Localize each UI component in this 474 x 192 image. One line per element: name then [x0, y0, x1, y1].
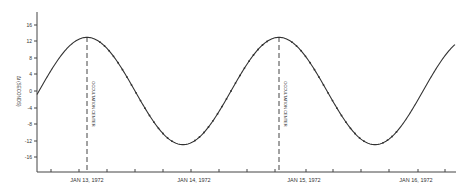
data-point	[354, 133, 356, 135]
y-tick-label: -8	[28, 121, 33, 127]
data-point	[153, 121, 155, 123]
data-point	[158, 127, 160, 129]
y-tick-label: 16	[26, 22, 32, 28]
data-point	[203, 132, 205, 134]
data-point	[230, 90, 232, 92]
data-point	[323, 84, 325, 86]
y-tick-label: -4	[28, 105, 33, 111]
data-point	[387, 139, 389, 141]
data-point	[239, 75, 241, 77]
y-tick-label: 8	[29, 55, 32, 61]
observation-points	[99, 41, 397, 144]
x-tick-label: JAN 16, 1972	[399, 177, 432, 183]
data-point	[363, 140, 365, 142]
data-point	[257, 49, 259, 51]
x-tick-label: JAN 15, 1972	[287, 177, 320, 183]
data-point	[212, 120, 214, 122]
data-point	[131, 84, 133, 86]
data-point	[341, 115, 343, 117]
data-point	[122, 69, 124, 71]
data-point	[382, 142, 384, 144]
y-axis-label: Δt (SECONDS)	[16, 76, 21, 107]
data-point	[113, 55, 115, 57]
data-point	[199, 136, 201, 138]
data-point	[345, 121, 347, 123]
x-tick-labels: JAN 13, 1972 JAN 14, 1972 JAN 15, 1972 J…	[70, 177, 432, 183]
data-point	[221, 106, 223, 108]
y-tick-label: -16	[25, 154, 32, 160]
x-tick-label: JAN 13, 1972	[70, 177, 103, 183]
data-point	[208, 126, 210, 128]
data-point	[359, 137, 361, 139]
data-point	[296, 45, 298, 47]
data-point	[327, 92, 329, 94]
data-point	[253, 54, 255, 56]
data-point	[396, 131, 398, 133]
data-point	[336, 107, 338, 109]
occultation-center-label-2: OCCULTATION CENTER	[283, 81, 288, 126]
y-tick-label: 4	[29, 71, 32, 77]
data-point	[135, 92, 137, 94]
data-point	[248, 60, 250, 62]
data-point	[149, 115, 151, 117]
data-point	[314, 69, 316, 71]
y-tick-label: 12	[26, 38, 32, 44]
y-tick-labels: 16 12 8 4 0 -4 -8 -12 -16	[25, 22, 32, 160]
data-point	[194, 140, 196, 142]
data-point	[108, 50, 110, 52]
data-point	[350, 127, 352, 129]
y-tick-label: -12	[25, 138, 32, 144]
data-point	[117, 62, 119, 64]
data-point	[162, 133, 164, 135]
occultation-center-label-1: OCCULTATION CENTER	[91, 81, 96, 126]
data-point	[309, 62, 311, 64]
data-point	[226, 98, 228, 100]
data-point	[167, 137, 169, 139]
data-point	[217, 113, 219, 115]
y-tick-label: 0	[29, 88, 32, 94]
data-point	[332, 100, 334, 102]
data-point	[305, 55, 307, 57]
x-tick-label: JAN 14, 1972	[177, 177, 210, 183]
data-point	[126, 76, 128, 78]
data-point	[262, 44, 264, 46]
data-point	[391, 136, 393, 138]
data-point	[291, 41, 293, 43]
data-point	[266, 41, 268, 43]
delta-t-curve	[37, 37, 455, 144]
data-point	[171, 140, 173, 142]
data-point	[144, 107, 146, 109]
data-point	[244, 67, 246, 69]
data-point	[99, 41, 101, 43]
data-point	[235, 82, 237, 84]
chart: 16 12 8 4 0 -4 -8 -12 -16 Δt (SECONDS) J…	[0, 0, 474, 192]
data-point	[104, 45, 106, 47]
data-point	[300, 50, 302, 52]
data-point	[140, 100, 142, 102]
data-point	[318, 76, 320, 78]
